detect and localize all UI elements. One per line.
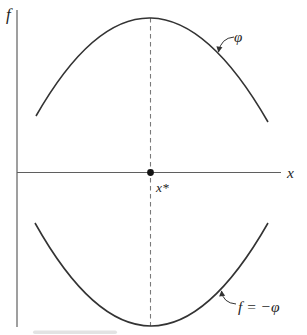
figure-background bbox=[0, 0, 307, 335]
function-plot-svg: f x x* φ f = −φ bbox=[0, 0, 307, 335]
figure-canvas: f x x* φ f = −φ bbox=[0, 0, 307, 335]
neg-phi-curve-label: f = −φ bbox=[238, 298, 280, 315]
phi-curve-label: φ bbox=[234, 29, 242, 45]
x-star-label: x* bbox=[155, 180, 169, 195]
x-star-point bbox=[147, 169, 154, 176]
cropped-caption-artifact bbox=[33, 331, 117, 335]
x-axis-label: x bbox=[286, 164, 294, 181]
